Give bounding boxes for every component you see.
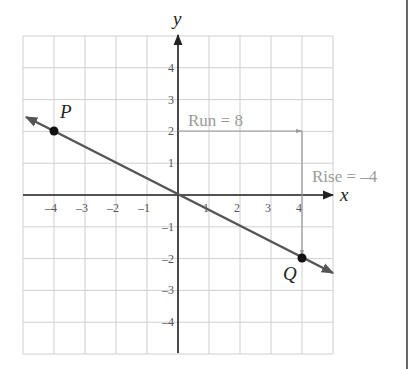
y-tick-label: –3 bbox=[161, 283, 174, 297]
x-tick-label: –2 bbox=[106, 201, 119, 215]
line-pq bbox=[54, 131, 333, 273]
y-tick-label: –4 bbox=[161, 315, 174, 329]
y-tick-label: 1 bbox=[168, 156, 174, 170]
point-q bbox=[298, 254, 307, 263]
x-tick-label: –3 bbox=[75, 201, 88, 215]
point-q-label: Q bbox=[283, 263, 297, 284]
y-tick-label: –1 bbox=[161, 220, 174, 234]
run-label: Run = 8 bbox=[188, 111, 243, 130]
y-tick-label: 2 bbox=[168, 124, 174, 138]
y-tick-label: 3 bbox=[168, 93, 174, 107]
x-tick-labels: –4–3–2–11234 bbox=[44, 201, 302, 215]
x-tick-label: 2 bbox=[234, 201, 240, 215]
point-p bbox=[50, 127, 59, 136]
point-p-label: P bbox=[59, 101, 72, 122]
line-pq bbox=[26, 117, 54, 131]
x-tick-label: –4 bbox=[44, 201, 57, 215]
y-tick-label: 4 bbox=[168, 61, 174, 75]
rise-label: Rise = –4 bbox=[312, 167, 378, 186]
x-tick-label: –1 bbox=[137, 201, 150, 215]
x-axis-label: x bbox=[339, 184, 349, 205]
y-axis-label: y bbox=[171, 8, 182, 29]
x-tick-label: 4 bbox=[296, 201, 302, 215]
coordinate-plane-chart: x y –4–3–2–11234 4321–1–2–3–4 Run = 8 Ri… bbox=[0, 0, 416, 369]
x-tick-label: 3 bbox=[265, 201, 271, 215]
y-tick-label: –2 bbox=[161, 252, 174, 266]
